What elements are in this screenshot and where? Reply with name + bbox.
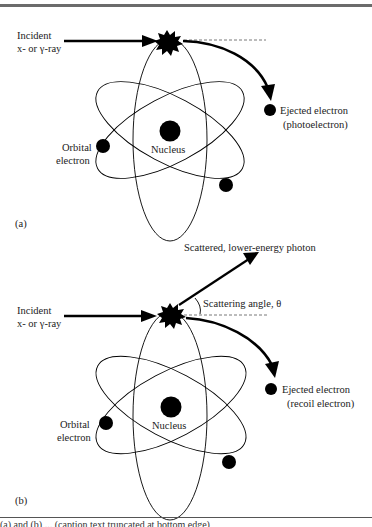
atom-interaction-diagram: Incident x- or γ-ray Ejected electron (p… — [0, 0, 372, 527]
orbital-sublabel-b: electron — [57, 432, 92, 443]
nucleus-b — [161, 397, 182, 418]
caption-fragment: (a) and (b) ... (caption text truncated … — [0, 520, 372, 527]
ejected-label-a: Ejected electron — [280, 105, 349, 116]
panel-b: Scattered, lower-energy photon Scatterin… — [15, 242, 355, 520]
interaction-starburst-icon-b — [157, 303, 186, 329]
incident-sublabel-a: x- or γ-ray — [17, 43, 62, 54]
incident-ray-arrow-a — [64, 35, 158, 47]
ejected-electron-b — [265, 383, 277, 395]
orbital-electron-b-right — [222, 455, 236, 469]
nucleus-a — [160, 121, 181, 142]
ejected-electron-path-a — [183, 41, 268, 88]
ejected-sublabel-a: (photoelectron) — [283, 119, 348, 131]
interaction-starburst-icon-a — [154, 30, 183, 56]
scattered-label: Scattered, lower-energy photon — [184, 242, 316, 253]
recoil-arrowhead — [265, 361, 279, 378]
nucleus-label-a: Nucleus — [151, 144, 185, 155]
recoil-electron-path — [186, 318, 272, 365]
orbital-electron-a-right — [219, 178, 233, 192]
ejected-electron-a — [264, 104, 276, 116]
orbital-label-b: Orbital — [60, 419, 90, 430]
scattering-angle-label: Scattering angle, θ — [203, 298, 281, 309]
ejected-arrowhead-a — [261, 84, 275, 101]
orbital-electron-a-left — [96, 139, 110, 153]
incident-label-b: Incident — [17, 305, 51, 316]
incident-label-a: Incident — [17, 30, 51, 41]
incident-sublabel-b: x- or γ-ray — [17, 318, 62, 329]
orbital-sublabel-a: electron — [56, 155, 91, 166]
panel-label-b: (b) — [15, 495, 28, 507]
orbital-electron-b-left — [99, 416, 113, 430]
incident-ray-arrow-b — [64, 310, 157, 322]
ejected-label-b: Ejected electron — [282, 384, 351, 395]
panel-a: Incident x- or γ-ray Ejected electron (p… — [15, 30, 349, 241]
panel-label-a: (a) — [15, 218, 27, 230]
ejected-sublabel-b: (recoil electron) — [287, 398, 355, 410]
bottom-rule — [0, 517, 372, 518]
nucleus-label-b: Nucleus — [152, 420, 186, 431]
caption-text: (a) and (b) ... (caption text truncated … — [0, 520, 372, 527]
scattering-angle-arc — [195, 298, 200, 314]
orbital-label-a: Orbital — [62, 142, 92, 153]
